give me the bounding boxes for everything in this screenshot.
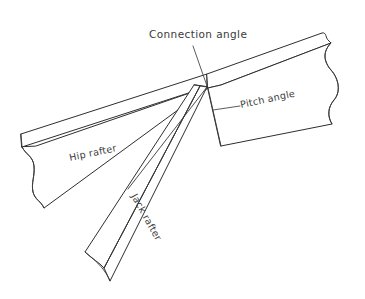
figure-root: Connection angle Pitch angle Hip rafter … <box>0 0 365 299</box>
connection-angle-label: Connection angle <box>149 28 247 40</box>
rafter-diagram: Connection angle Pitch angle Hip rafter … <box>0 0 365 299</box>
